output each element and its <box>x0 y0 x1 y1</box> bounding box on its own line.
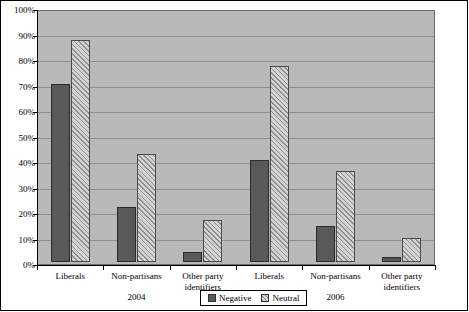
bar-neutral-1 <box>137 154 156 262</box>
bar-negative-0 <box>51 84 70 263</box>
bar-negative-1 <box>117 207 136 262</box>
category-label-line: Liberals <box>37 271 103 282</box>
gridline <box>38 36 434 37</box>
group-label-2006: 2006 <box>296 292 376 302</box>
x-axis-tick-mark <box>302 265 303 270</box>
category-label-line: identifiers <box>369 282 435 293</box>
bar-neutral-5 <box>402 238 421 262</box>
plot-area <box>37 10 435 265</box>
x-axis-category-label: Non-partisans <box>302 271 368 282</box>
y-axis-tick-label: 70% <box>1 83 35 92</box>
gridline <box>38 61 434 62</box>
hatched-swatch-icon <box>261 294 269 302</box>
y-axis-tick-label: 40% <box>1 159 35 168</box>
gridline <box>38 112 434 113</box>
y-axis-line <box>37 10 38 266</box>
y-axis-tick-label: 80% <box>1 57 35 66</box>
bar-negative-5 <box>382 257 401 262</box>
x-axis-category-label: Liberals <box>236 271 302 282</box>
legend-label-neutral: Neutral <box>272 294 299 303</box>
x-axis-tick-mark <box>37 265 38 270</box>
bar-neutral-3 <box>270 66 289 262</box>
category-label-line: Non-partisans <box>302 271 368 282</box>
category-label-line: Other party <box>369 271 435 282</box>
y-axis-tick-label: 10% <box>1 236 35 245</box>
chart-frame: 100%90%80%70%60%50%40%30%20%10%0% Libera… <box>0 0 468 311</box>
category-label-line: Non-partisans <box>103 271 169 282</box>
category-label-line: Liberals <box>236 271 302 282</box>
bar-neutral-0 <box>71 40 90 262</box>
x-axis-tick-mark <box>369 265 370 270</box>
bar-negative-4 <box>316 226 335 262</box>
bar-negative-3 <box>250 160 269 262</box>
gridline <box>38 138 434 139</box>
gridline <box>38 87 434 88</box>
x-axis-category-label: Liberals <box>37 271 103 282</box>
y-axis-tick-label: 30% <box>1 185 35 194</box>
y-axis-tick-label: 20% <box>1 210 35 219</box>
bar-negative-2 <box>183 252 202 262</box>
group-label-2004: 2004 <box>97 292 177 302</box>
x-axis-tick-mark <box>435 265 436 270</box>
y-axis: 100%90%80%70%60%50%40%30%20%10%0% <box>1 1 35 312</box>
bar-neutral-4 <box>336 171 355 262</box>
x-axis-tick-mark <box>170 265 171 270</box>
y-axis-tick-label: 50% <box>1 134 35 143</box>
legend-item-negative: Negative <box>208 294 251 303</box>
y-axis-tick-label: 90% <box>1 32 35 41</box>
gridline <box>38 163 434 164</box>
legend-item-neutral: Neutral <box>261 294 299 303</box>
gridline <box>38 240 434 241</box>
bar-neutral-2 <box>203 220 222 262</box>
gridline <box>38 214 434 215</box>
y-axis-tick-label: 60% <box>1 108 35 117</box>
solid-dark-swatch-icon <box>208 294 216 302</box>
category-label-line: Other party <box>170 271 236 282</box>
x-axis-category-label: Non-partisans <box>103 271 169 282</box>
gridline <box>38 189 434 190</box>
y-axis-tick-label: 0% <box>1 261 35 270</box>
x-axis-tick-mark <box>103 265 104 270</box>
x-axis-category-label: Other partyidentifiers <box>369 271 435 293</box>
y-axis-tick-label: 100% <box>1 6 35 15</box>
chart-legend: Negative Neutral <box>200 290 307 306</box>
x-axis-tick-mark <box>236 265 237 270</box>
legend-label-negative: Negative <box>219 294 251 303</box>
